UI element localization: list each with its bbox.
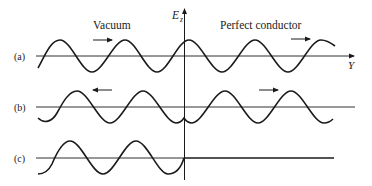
- region-label-vacuum: Vacuum: [93, 19, 131, 31]
- wave-c: [38, 141, 184, 174]
- region-label-perfect-conductor: Perfect conductor: [220, 19, 302, 31]
- axis-label-ez: E: [171, 9, 179, 21]
- vertical-axis: E z: [171, 9, 185, 180]
- row-label-a: (a): [14, 51, 25, 63]
- row-label-c: (c): [14, 153, 25, 165]
- axis-label-ez-subscript: z: [179, 15, 183, 24]
- row-c: (c): [14, 141, 334, 174]
- row-label-b: (b): [14, 102, 26, 114]
- axis-label-y: Y: [348, 59, 356, 71]
- wave-diagram: Vacuum Perfect conductor E z (a) Y (b) (…: [0, 0, 372, 186]
